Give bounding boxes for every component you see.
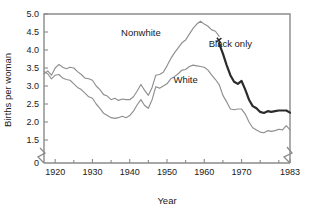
x-axis-tick-label: 1930 (82, 167, 102, 177)
y-axis-tick-labels: 01.52.02.53.03.54.04.55.0 (26, 9, 39, 168)
births-per-woman-line-chart: 1920193019401950196019701983 01.52.02.53… (0, 0, 318, 209)
series-line-white (44, 65, 290, 133)
y-axis-tick-label: 4.5 (26, 27, 39, 37)
x-axis-tick-labels: 1920193019401950196019701983 (45, 167, 300, 177)
y-axis-tick-label: 1.5 (26, 135, 39, 145)
x-axis-tick-label: 1970 (232, 167, 252, 177)
y-axis-tick-label: 4.0 (26, 45, 39, 55)
plot-frame (44, 14, 290, 163)
y-axis-tick-label: 5.0 (26, 9, 39, 19)
x-axis-tick-label: 1960 (194, 167, 214, 177)
series-line-black-only (219, 44, 290, 113)
series-label-nonwhite: Nonwhite (121, 27, 161, 38)
x-axis-title: Year (157, 195, 176, 206)
axis-break-marks (38, 147, 292, 163)
x-axis-tick-label: 1950 (157, 167, 177, 177)
x-axis-break-icon (284, 147, 292, 163)
y-axis-title: Births per woman (2, 53, 13, 127)
data-series-group (44, 21, 290, 133)
series-annotations: NonwhiteBlack onlyWhite (121, 27, 252, 85)
axis-frame (44, 14, 290, 163)
chart-figure: 1920193019401950196019701983 01.52.02.53… (0, 0, 318, 209)
y-axis-tick-label: 0 (34, 158, 39, 168)
y-axis-tick-label: 2.0 (26, 117, 39, 127)
series-label-black-only: Black only (209, 38, 253, 49)
y-axis-tick-label: 3.0 (26, 81, 39, 91)
x-axis-tick-label: 1940 (120, 167, 140, 177)
y-axis-tick-label: 2.5 (26, 99, 39, 109)
y-axis-tick-label: 3.5 (26, 63, 39, 73)
x-axis-tick-label: 1920 (45, 167, 65, 177)
x-axis-tick-label: 1983 (280, 167, 300, 177)
series-label-white: White (173, 74, 197, 85)
